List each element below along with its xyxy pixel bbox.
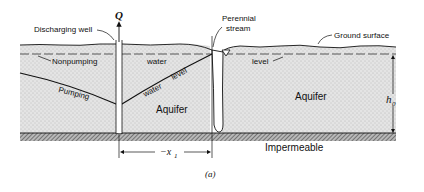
aquifer-well-stream-diagram: Q Discharging well Perennial stream Grou… <box>0 0 424 192</box>
x1-subscript: 1 <box>174 152 178 160</box>
nonpumping-label: Nonpumping <box>52 57 97 66</box>
ground-surface-leader <box>318 35 332 44</box>
aquifer-label-left: Aquifer <box>156 104 188 115</box>
water-label-top: water <box>146 57 167 66</box>
perennial-stream-channel <box>212 50 223 132</box>
discharging-well-casing <box>116 40 122 133</box>
aquifer-label-right: Aquifer <box>295 91 327 102</box>
perennial-stream-label-line2: stream <box>226 24 251 33</box>
flow-label: Q <box>115 9 123 21</box>
h0-subscript: 0 <box>392 100 396 108</box>
discharging-well-leader <box>97 30 114 40</box>
perennial-stream-leader <box>213 27 222 47</box>
aquifer-right-region <box>222 45 396 133</box>
ground-surface-label: Ground surface <box>334 31 390 40</box>
discharging-well-label: Discharging well <box>34 25 92 34</box>
impermeable-label: Impermeable <box>265 142 324 153</box>
impermeable-layer <box>20 133 396 141</box>
figure-caption: (a) <box>205 169 216 179</box>
level-label-right: level <box>252 57 269 66</box>
perennial-stream-label-line1: Perennial <box>222 14 256 23</box>
x1-label: −x <box>160 146 172 157</box>
